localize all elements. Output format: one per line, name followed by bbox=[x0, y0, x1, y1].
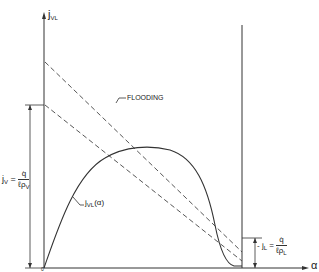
vapor-limit-denominator: ℓρV bbox=[18, 180, 29, 190]
vapor-limit-eq: = bbox=[11, 174, 16, 184]
liquid-limit-lhs-sub: L bbox=[264, 245, 267, 251]
liquid-limit-label: - jL = q̇ ℓρL bbox=[257, 236, 287, 256]
vapor-limit-den-sub: V bbox=[25, 184, 29, 190]
vapor-limit-lhs-sub: V bbox=[4, 179, 8, 185]
flooding-leader bbox=[116, 98, 126, 103]
liquid-dimension-arrow-down-icon bbox=[253, 263, 257, 268]
flooding-label: FLOODING bbox=[127, 94, 164, 101]
y-axis-label-sub: VL bbox=[50, 15, 57, 21]
vapor-dimension-arrow-up-icon bbox=[28, 105, 32, 110]
curve-label-arg: (α) bbox=[94, 198, 104, 207]
vapor-limit-numerator: q̇ bbox=[18, 170, 29, 180]
origin-label: 0 bbox=[41, 267, 44, 272]
vapor-dimension-arrow-down-icon bbox=[28, 263, 32, 268]
liquid-limit-fraction: q̇ ℓρL bbox=[276, 236, 286, 256]
vapor-limit-fraction: q̇ ℓρV bbox=[18, 170, 29, 190]
x-axis-arrow-icon bbox=[302, 266, 309, 270]
liquid-limit-denominator: ℓρL bbox=[276, 246, 286, 256]
x-axis-label: α bbox=[311, 260, 317, 271]
curve-label-leader bbox=[73, 197, 84, 205]
drift-flux-curve bbox=[44, 147, 242, 268]
y-axis-arrow-icon bbox=[42, 12, 46, 19]
diagram-canvas bbox=[0, 0, 319, 272]
flooding-line bbox=[45, 62, 242, 252]
limit-dashed-line bbox=[45, 105, 242, 261]
curve-label: jVL(α) bbox=[85, 199, 104, 208]
liquid-limit-numerator: q̇ bbox=[276, 236, 286, 246]
y-axis-label: jVL bbox=[48, 9, 58, 21]
liquid-limit-prefix: - bbox=[257, 241, 260, 250]
vapor-limit-label: jV = q̇ ℓρV bbox=[2, 170, 29, 190]
liquid-limit-den-sub: L bbox=[283, 250, 286, 256]
liquid-limit-eq: = bbox=[269, 241, 274, 250]
